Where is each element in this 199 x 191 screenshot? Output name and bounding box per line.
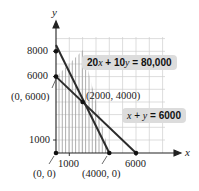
y-tick-1000: 1000 (29, 135, 50, 146)
equation-box-20x-10y: 20x + 10y = 80,000 (82, 55, 177, 70)
point-label-0-0: (0, 0) (33, 169, 56, 180)
eq2-suffix: = 6000 (147, 110, 181, 121)
y-axis-label: y (52, 7, 57, 18)
eq2-mid: + (131, 110, 142, 121)
y-tick-6000: 6000 (27, 71, 48, 82)
y-tick-8000: 8000 (27, 46, 48, 57)
x-tick-6000: 6000 (125, 159, 146, 170)
point-label-0-6000: (0, 6000) (11, 92, 50, 103)
eq1-mid: + 10 (103, 57, 126, 68)
eq1-suffix: = 80,000 (130, 57, 172, 68)
point-label-4000-0: (4000, 0) (82, 169, 121, 180)
equation-box-x-y: x + y = 6000 (122, 108, 186, 123)
x-tick-1000: 1000 (58, 159, 79, 170)
x-axis-label: x (185, 147, 190, 158)
eq1-prefix: 20 (87, 57, 98, 68)
point-label-2000-4000: (2000, 4000) (86, 91, 140, 102)
